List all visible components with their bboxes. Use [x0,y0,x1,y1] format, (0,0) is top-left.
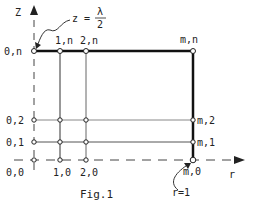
node-02 [32,118,36,122]
r-axis-arrow-icon [234,156,245,164]
node-11 [58,140,62,144]
label-mn: m,n [180,34,198,45]
z-axis-arrow-icon [30,5,38,15]
node-10 [58,158,62,162]
label-m2: m,2 [197,115,215,126]
node-12 [58,118,62,122]
label-00: 0,0 [6,167,24,178]
figure-caption: Fig.1 [80,188,113,201]
node-m1 [191,140,195,144]
node-1n [58,49,63,54]
grid-diagram: Z r 0,n 1,n 2,n m,n 0,2 0,1 0,0 1,0 2,0 … [0,0,255,213]
label-1n: 1,n [55,35,73,46]
node-00 [32,158,36,162]
label-20: 2,0 [80,167,98,178]
node-mn [191,49,196,54]
node-0n [32,49,37,54]
node-m0 [190,157,196,163]
label-02: 0,2 [6,115,24,126]
label-01: 0,1 [6,137,24,148]
label-10: 1,0 [53,167,71,178]
r-axis-label: r [229,169,235,180]
annotation-top-den: 2 [97,19,103,30]
node-20 [84,158,88,162]
label-0n: 0,n [4,46,22,57]
label-2n: 2,n [80,35,98,46]
node-2n [84,49,89,54]
annotation-top-num: λ [97,6,103,17]
annotation-top-lhs: z = [72,13,90,24]
node-21 [84,140,88,144]
annotation-right: r=1 [172,187,190,198]
node-22 [84,118,88,122]
label-m0: m,0 [183,166,201,177]
node-m2 [191,118,195,122]
z-axis-label: Z [15,7,21,18]
node-01 [32,140,36,144]
label-m1: m,1 [197,137,215,148]
